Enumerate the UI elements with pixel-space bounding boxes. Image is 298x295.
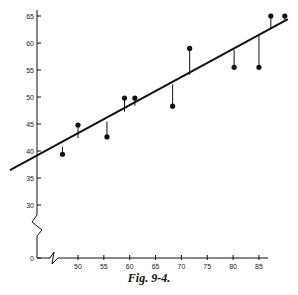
y-tick-label: 45 — [26, 121, 34, 128]
x-tick-label: 70 — [178, 263, 186, 270]
x-tick-label: 60 — [126, 263, 134, 270]
axes — [32, 10, 268, 264]
data-point — [75, 122, 80, 127]
y-tick-label: 35 — [26, 175, 34, 182]
x-axis-ticks: 5055606570758085 — [74, 255, 263, 270]
data-point — [170, 104, 175, 109]
y-tick-label: 55 — [26, 67, 34, 74]
data-point — [268, 13, 273, 18]
data-point — [282, 13, 287, 18]
x-tick-label: 80 — [229, 263, 237, 270]
data-point — [104, 134, 109, 139]
y-tick-label: 50 — [26, 94, 34, 101]
y-tick-label: 40 — [26, 148, 34, 155]
figure-caption: Fig. 9-4. — [0, 271, 298, 286]
x-tick-label: 65 — [152, 263, 160, 270]
y-tick-label: 65 — [26, 13, 34, 20]
data-point — [60, 152, 65, 157]
axis-lines — [32, 10, 268, 264]
data-point — [132, 95, 137, 100]
fit-line — [10, 19, 288, 170]
y-tick-label: 60 — [26, 40, 34, 47]
x-tick-label: 75 — [203, 263, 211, 270]
x-tick-label: 55 — [100, 263, 108, 270]
y-tick-label: 0 — [30, 255, 34, 262]
data-point — [232, 65, 237, 70]
x-tick-label: 50 — [74, 263, 82, 270]
regression-line — [10, 19, 288, 170]
y-axis-ticks: 03035404550556065 — [26, 13, 41, 262]
scatter-chart: 03035404550556065 5055606570758085 — [0, 0, 298, 270]
data-point — [256, 65, 261, 70]
data-points — [60, 13, 288, 156]
data-point — [122, 95, 127, 100]
y-tick-label: 30 — [26, 202, 34, 209]
residual-lines — [62, 16, 284, 154]
data-point — [187, 46, 192, 51]
x-tick-label: 85 — [255, 263, 263, 270]
